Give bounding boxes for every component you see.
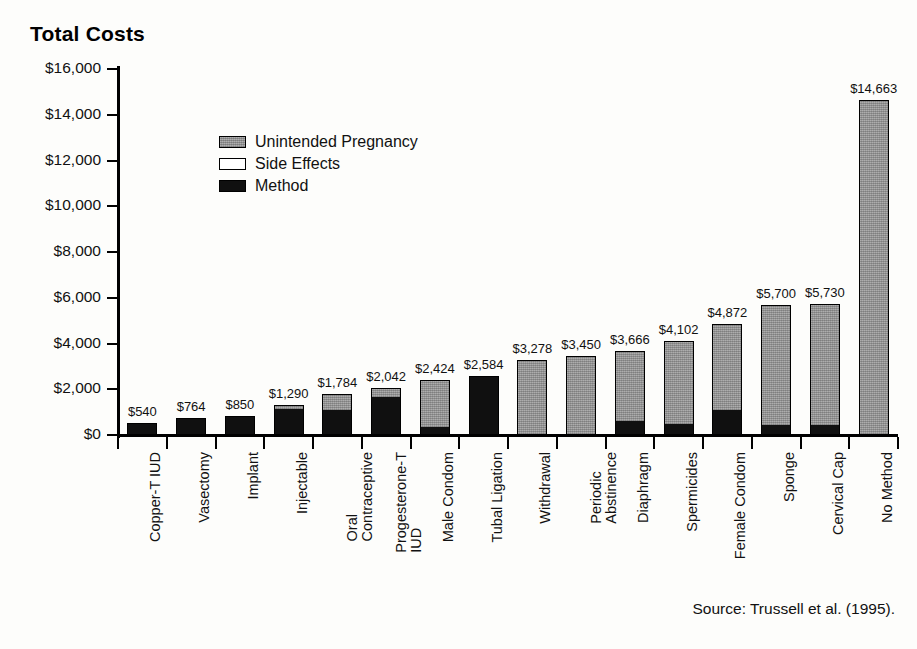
y-axis-tick-label: $12,000: [0, 151, 101, 169]
bar-segment-method: [226, 417, 254, 434]
legend-swatch-side-effects-icon: [219, 158, 246, 170]
bar-value-label: $1,290: [269, 386, 309, 401]
chart-legend: Unintended PregnancySide EffectsMethod: [219, 133, 418, 199]
x-axis-label-line: IUD: [409, 452, 424, 553]
x-axis-category-label: Cervical Cap: [831, 452, 846, 535]
y-axis-tick: [107, 434, 118, 436]
bar-segment-method: [421, 427, 449, 434]
x-axis-tick: [751, 437, 753, 449]
x-axis-category-label: Diaphragm: [636, 452, 651, 523]
y-axis-tick-label: $8,000: [0, 242, 101, 260]
y-axis-tick-label: $6,000: [0, 288, 101, 306]
x-axis-label-line: Withdrawal: [538, 452, 553, 524]
x-axis-category-label: Spermicides: [685, 452, 700, 532]
x-axis-category-label: Female Condom: [733, 452, 748, 559]
y-axis-tick: [107, 388, 118, 390]
x-axis-tick: [897, 437, 899, 449]
bar-segment-unintended-pregnancy: [567, 357, 595, 434]
x-axis-category-label: Sponge: [782, 452, 797, 502]
bar-no-method[interactable]: [859, 100, 889, 435]
bar-segment-unintended-pregnancy: [518, 361, 546, 434]
bar-segment-method: [665, 424, 693, 434]
bar-value-label: $3,278: [512, 341, 552, 356]
bar-cervical-cap[interactable]: [810, 304, 840, 435]
x-axis-tick: [312, 437, 314, 449]
bar-segment-method: [616, 421, 644, 434]
x-axis-label-line: Cervical Cap: [831, 452, 846, 535]
bar-value-label: $5,700: [756, 286, 796, 301]
bar-value-label: $1,784: [317, 375, 357, 390]
x-axis-tick: [800, 437, 802, 449]
y-axis-tick: [107, 297, 118, 299]
y-axis-tick: [107, 251, 118, 253]
x-axis-label-line: Tubal Ligation: [490, 452, 505, 543]
y-axis-tick: [107, 343, 118, 345]
legend-label: Method: [255, 177, 308, 195]
x-axis-label-line: Implant: [246, 452, 261, 500]
bar-segment-unintended-pregnancy: [616, 352, 644, 420]
bar-value-label: $4,102: [659, 322, 699, 337]
x-axis-tick: [702, 437, 704, 449]
bar-value-label: $2,584: [464, 357, 504, 372]
x-axis-tick: [458, 437, 460, 449]
bar-vasectomy[interactable]: [176, 418, 206, 435]
x-axis-label-line: Contraceptive: [360, 452, 375, 541]
bar-tubal-ligation[interactable]: [469, 376, 499, 435]
source-attribution: Source: Trussell et al. (1995).: [693, 600, 895, 618]
bar-value-label: $3,450: [561, 337, 601, 352]
y-axis-tick-label: $0: [0, 425, 101, 443]
x-axis-label-line: Sponge: [782, 452, 797, 502]
bar-withdrawal[interactable]: [517, 360, 547, 435]
bar-periodic-abstinence[interactable]: [566, 356, 596, 435]
x-axis-label-line: Spermicides: [685, 452, 700, 532]
y-axis-tick: [107, 68, 118, 70]
x-axis-tick: [263, 437, 265, 449]
x-axis-category-label: Vasectomy: [197, 452, 212, 523]
bar-value-label: $764: [177, 399, 206, 414]
bar-progesterone-t-iud[interactable]: [371, 388, 401, 435]
legend-swatch-unintended-pregnancy-icon: [219, 136, 246, 148]
x-axis-label-line: Diaphragm: [636, 452, 651, 523]
bar-segment-unintended-pregnancy: [323, 395, 351, 410]
bar-implant[interactable]: [225, 416, 255, 435]
bar-segment-unintended-pregnancy: [762, 306, 790, 425]
bar-oral-contraceptive[interactable]: [322, 394, 352, 435]
bar-spermicides[interactable]: [664, 341, 694, 435]
bar-diaphragm[interactable]: [615, 351, 645, 435]
bar-segment-method: [713, 410, 741, 434]
x-axis-category-label: OralContraceptive: [345, 452, 375, 541]
bar-male-condom[interactable]: [420, 380, 450, 435]
bar-segment-method: [762, 425, 790, 434]
bar-value-label: $4,872: [707, 305, 747, 320]
bar-segment-unintended-pregnancy: [421, 381, 449, 428]
x-axis-tick: [117, 437, 119, 449]
x-axis-category-label: Male Condom: [441, 452, 456, 542]
bar-sponge[interactable]: [761, 305, 791, 435]
bar-value-label: $3,666: [610, 332, 650, 347]
x-axis-category-label: Progesterone-TIUD: [394, 452, 424, 553]
x-axis-tick: [653, 437, 655, 449]
x-axis-category-label: Copper-T IUD: [148, 452, 163, 542]
bar-value-label: $2,424: [415, 361, 455, 376]
bar-copper-t-iud[interactable]: [127, 423, 157, 435]
x-axis-category-label: Withdrawal: [538, 452, 553, 524]
legend-item-method[interactable]: Method: [219, 177, 418, 195]
bar-segment-method: [470, 377, 498, 434]
legend-item-unintended-pregnancy[interactable]: Unintended Pregnancy: [219, 133, 418, 151]
legend-swatch-method-icon: [219, 180, 246, 192]
legend-item-side-effects[interactable]: Side Effects: [219, 155, 418, 173]
x-axis-label-line: Periodic: [589, 452, 604, 524]
x-axis-category-label: Tubal Ligation: [490, 452, 505, 543]
bar-value-label: $5,730: [805, 285, 845, 300]
x-axis-tick: [361, 437, 363, 449]
bar-female-condom[interactable]: [712, 324, 742, 435]
x-axis-tick: [605, 437, 607, 449]
bar-value-label: $850: [225, 397, 254, 412]
x-axis-label-line: Copper-T IUD: [148, 452, 163, 542]
bar-segment-method: [372, 397, 400, 434]
bar-segment-method: [323, 410, 351, 434]
bar-injectable[interactable]: [274, 405, 304, 435]
bar-segment-unintended-pregnancy: [713, 325, 741, 411]
bar-segment-method: [275, 409, 303, 434]
page-title: Total Costs: [30, 22, 145, 46]
